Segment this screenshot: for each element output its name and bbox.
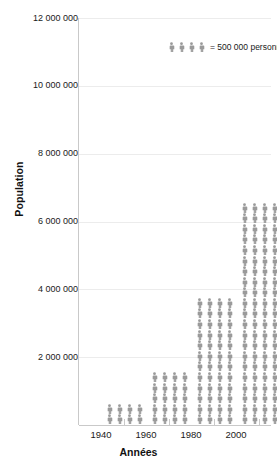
person-icon (240, 266, 249, 277)
y-tick-label: 8 000 000 (6, 149, 78, 158)
person-icon (195, 414, 204, 425)
person-icon (240, 393, 249, 404)
person-icon (205, 404, 214, 415)
pictogram-row (150, 393, 189, 404)
person-icon (250, 351, 259, 362)
person-icon (195, 330, 204, 341)
pictogram-row (240, 308, 278, 319)
person-icon (250, 340, 259, 351)
person-icon (270, 308, 278, 319)
person-icon (195, 298, 204, 309)
pictogram-column (148, 372, 190, 425)
pictogram-row (240, 393, 278, 404)
person-icon (195, 361, 204, 372)
person-icon (225, 351, 234, 362)
person-icon (250, 245, 259, 256)
person-icon (225, 319, 234, 330)
y-tick-label: 10 000 000 (6, 81, 78, 90)
y-tick-label: 6 000 000 (6, 217, 78, 226)
person-icon (260, 203, 269, 214)
person-icon (205, 414, 214, 425)
pictogram-row (195, 351, 234, 362)
pictogram-row (195, 298, 234, 309)
person-icon (205, 361, 214, 372)
person-icon (250, 393, 259, 404)
pictogram-column (193, 298, 235, 425)
gridline (79, 86, 271, 87)
person-icon (215, 340, 224, 351)
person-icon (240, 213, 249, 224)
person-icon (250, 266, 259, 277)
person-icon (225, 361, 234, 372)
person-icon (215, 372, 224, 383)
person-icon (240, 298, 249, 309)
pictogram-row (195, 330, 234, 341)
pictogram-row (240, 224, 278, 235)
pictogram-row (240, 361, 278, 372)
person-icon (250, 213, 259, 224)
person-icon (215, 414, 224, 425)
pictogram-column (238, 203, 277, 425)
person-icon (250, 414, 259, 425)
pictogram-row (240, 203, 278, 214)
person-icon (250, 308, 259, 319)
person-icon (260, 298, 269, 309)
person-icon (250, 287, 259, 298)
person-icon (215, 393, 224, 404)
pictogram-row (240, 234, 278, 245)
y-tick-label: 2 000 000 (6, 353, 78, 362)
pictogram-row (240, 319, 278, 330)
person-icon (105, 404, 114, 415)
person-icon (187, 42, 196, 53)
person-icon (150, 414, 159, 425)
person-icon (250, 372, 259, 383)
person-icon (150, 383, 159, 394)
legend-label: = 500 000 personnes (210, 42, 277, 52)
person-icon (167, 42, 176, 53)
person-icon (225, 404, 234, 415)
person-icon (270, 372, 278, 383)
person-icon (240, 340, 249, 351)
person-icon (205, 330, 214, 341)
x-tick-label: 2000 (206, 429, 266, 440)
person-icon (225, 330, 234, 341)
person-icon (250, 256, 259, 267)
y-tick-label: 4 000 000 (6, 285, 78, 294)
person-icon (260, 224, 269, 235)
person-icon (205, 372, 214, 383)
person-icon (250, 234, 259, 245)
person-icon (270, 404, 278, 415)
person-icon (215, 308, 224, 319)
pictogram-row (150, 404, 189, 415)
person-icon (260, 340, 269, 351)
pictogram-row (240, 340, 278, 351)
person-icon (240, 330, 249, 341)
pictogram-row (240, 383, 278, 394)
pictogram-row (240, 330, 278, 341)
pictogram-row (195, 340, 234, 351)
person-icon (260, 277, 269, 288)
person-icon (260, 256, 269, 267)
person-icon (205, 298, 214, 309)
pictogram-row (240, 245, 278, 256)
person-icon (250, 330, 259, 341)
pictogram-row (105, 414, 144, 425)
person-icon (215, 298, 224, 309)
person-icon (260, 414, 269, 425)
person-icon (270, 383, 278, 394)
person-icon (260, 351, 269, 362)
person-icon (260, 319, 269, 330)
pictogram-row (240, 266, 278, 277)
pictogram-row (240, 372, 278, 383)
person-icon (260, 213, 269, 224)
pictogram-row (195, 308, 234, 319)
person-icon (150, 372, 159, 383)
person-icon (197, 42, 206, 53)
person-icon (160, 393, 169, 404)
pictogram-row (240, 277, 278, 288)
person-icon (215, 351, 224, 362)
pictogram-row (195, 383, 234, 394)
person-icon (180, 372, 189, 383)
person-icon (170, 372, 179, 383)
person-icon (270, 298, 278, 309)
